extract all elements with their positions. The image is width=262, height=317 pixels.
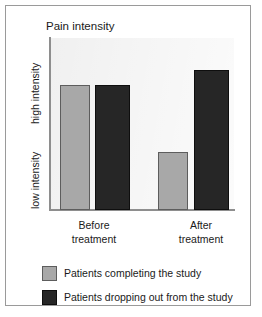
bar-after-patients-dropping-out [194,70,229,210]
legend-label-patients-dropping-out: Patients dropping out from the study [64,290,233,304]
y-axis-label-low-intensity: low intensity [29,152,41,209]
chart-title: Pain intensity [46,20,114,33]
figure-frame: Pain intensity high intensity low intens… [5,5,251,306]
legend-swatch-dark [42,290,57,305]
x-axis-label-before-line1: Before [54,218,134,232]
bar-after-patients-completing [158,152,188,210]
x-axis-label-after-line2: treatment [161,232,241,246]
y-axis-line [49,37,51,210]
x-axis-label-after-treatment: After treatment [161,218,241,246]
bar-before-patients-dropping-out [95,85,130,210]
x-axis-label-before-treatment: Before treatment [54,218,134,246]
legend-label-patients-completing: Patients completing the study [64,266,201,280]
chart-figure: Pain intensity high intensity low intens… [0,0,262,317]
x-axis-label-before-line2: treatment [54,232,134,246]
x-axis-label-after-line1: After [161,218,241,232]
bar-before-patients-completing [60,85,90,210]
y-axis-label-high-intensity: high intensity [29,63,41,124]
legend-swatch-light [42,266,57,281]
